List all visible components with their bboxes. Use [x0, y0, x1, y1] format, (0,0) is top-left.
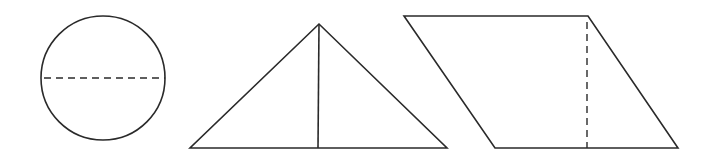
triangle-figure: [190, 24, 447, 148]
parallelogram-outline: [404, 16, 678, 148]
circle-figure: [41, 16, 165, 140]
triangle-height-line: [318, 24, 319, 148]
geometry-figures: [0, 0, 705, 158]
parallelogram-figure: [404, 16, 678, 148]
